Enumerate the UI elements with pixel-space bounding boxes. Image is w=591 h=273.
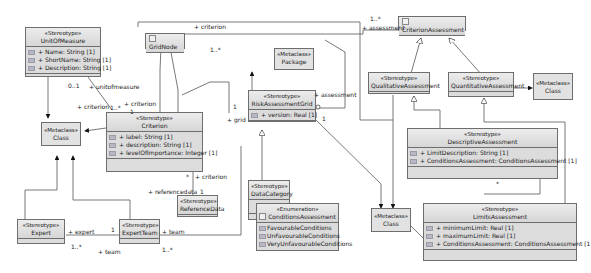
enumeration-conditions-assessment[interactable]: «Enumeration» ConditionsAssessment Favou…	[256, 203, 339, 251]
class-risk-assessment-grid[interactable]: «Stereotype» RiskAssessmentGrid + versio…	[248, 90, 316, 122]
attribute-icon	[28, 50, 35, 55]
stereotype-label: «Stereotype»	[122, 221, 157, 229]
attributes-section	[369, 92, 429, 93]
stereotype-label: «Enumeration»	[259, 205, 336, 213]
class-header: GridNode	[146, 34, 184, 53]
class-expert[interactable]: «Stereotype» Expert	[17, 219, 65, 244]
attribute-icon	[28, 66, 35, 71]
class-name: QuantitativeAssessment	[451, 82, 511, 90]
class-header: «Metaclass» Class	[534, 74, 572, 99]
attributes-section: + LimitDescription: String [1] + Conditi…	[408, 148, 557, 167]
role-label: + assessment	[314, 91, 357, 98]
metaclass-class-right[interactable]: «Metaclass» Class	[533, 73, 573, 100]
attribute[interactable]: + ConditionsAssessment: ConditionsAssess…	[410, 157, 555, 165]
class-header: «Metaclass» Package	[275, 49, 313, 69]
attribute[interactable]: + label: String [1]	[109, 133, 200, 141]
class-name: Package	[277, 58, 311, 66]
class-reference-data[interactable]: «Stereotype» ReferenceData	[177, 195, 218, 217]
class-name: CriterionAssessment	[402, 26, 464, 33]
multiplicity-label: 0..1	[68, 82, 79, 89]
multiplicity-label: 1..*	[110, 104, 121, 111]
attributes-section	[120, 239, 159, 240]
class-name: ExpertTeam	[122, 229, 157, 237]
class-name: DataCategory	[251, 190, 287, 198]
metaclass-package[interactable]: «Metaclass» Package	[274, 48, 314, 70]
stereotype-label: «Stereotype»	[28, 29, 98, 37]
class-name: RiskAssessmentGrid	[251, 100, 313, 108]
role-label: + assessment	[362, 24, 405, 31]
attribute-icon	[410, 151, 417, 156]
class-name: UnitOfMeasure	[28, 37, 98, 45]
stereotype-label: «Stereotype»	[410, 130, 555, 138]
role-label: + unitofmeasure	[89, 83, 140, 90]
attribute[interactable]: + minimumLimit: Real [1]	[426, 224, 574, 232]
class-name: Class	[374, 220, 408, 228]
literals-section: FavourableConditions UnFavourableConditi…	[257, 223, 338, 249]
operations-section	[107, 159, 202, 165]
role-label: + criterion	[77, 103, 109, 110]
attributes-section	[449, 92, 513, 94]
class-name: ConditionsAssessment	[268, 213, 336, 220]
role-label: + criterion	[194, 23, 226, 30]
attribute[interactable]: + Description: String [1]	[28, 64, 98, 72]
attribute[interactable]: + ConditionsAssessment: ConditionsAssess…	[426, 240, 574, 248]
class-grid-node[interactable]: GridNode	[145, 33, 185, 49]
enum-literal[interactable]: UnFavourableConditions	[259, 232, 336, 240]
stereotype-label: «Stereotype»	[251, 92, 313, 100]
literal-icon	[259, 234, 266, 239]
operations-section	[424, 250, 576, 258]
enum-literal[interactable]: FavourableConditions	[259, 224, 336, 232]
class-header: CriterionAssessment	[399, 17, 465, 36]
attributes-section	[399, 36, 465, 38]
stereotype-label: «Stereotype»	[20, 221, 62, 229]
attribute-icon	[426, 234, 433, 239]
class-name: GridNode	[149, 43, 177, 50]
role-label: + referencedata	[148, 188, 197, 195]
attribute[interactable]: + ShortName: String [1]	[28, 56, 98, 64]
multiplicity-label: 1..*	[162, 246, 173, 253]
class-criterion[interactable]: «Stereotype» Criterion + label: String […	[106, 112, 203, 172]
class-header: «Stereotype» QuantitativeAssessment	[449, 73, 513, 92]
stereotype-label: «Metaclass»	[536, 79, 570, 87]
class-descriptive-assessment[interactable]: «Stereotype» DescriptiveAssessment + Lim…	[407, 128, 558, 179]
attribute[interactable]: + LimitDescription: String [1]	[410, 149, 555, 157]
class-criterion-assessment[interactable]: CriterionAssessment	[398, 16, 466, 31]
multiplicity-label: 1	[233, 103, 237, 110]
attributes-section	[18, 239, 64, 240]
class-qualitative-assessment[interactable]: «Stereotype» QualitativeAssessment	[368, 72, 430, 94]
enum-literal[interactable]: VeryUnfavourableConditions	[259, 240, 336, 248]
class-header: «Stereotype» LimitsAssessment	[424, 204, 576, 223]
attributes-section: + minimumLimit: Real [1] + maximumLimit:…	[424, 223, 576, 250]
role-label: + team	[98, 248, 121, 255]
role-label: + grid	[227, 116, 246, 123]
attribute[interactable]: + Name: String [1]	[28, 48, 98, 56]
class-icon	[149, 35, 156, 42]
class-quantitative-assessment[interactable]: «Stereotype» QuantitativeAssessment	[448, 72, 514, 97]
attribute[interactable]: + levelOfImportance: Integer [1]	[109, 149, 200, 157]
attributes-section: + Name: String [1] + ShortName: String […	[26, 47, 100, 74]
role-label: + expert	[68, 228, 94, 235]
multiplicity-label: *	[186, 173, 189, 180]
class-unit-of-measure[interactable]: «Stereotype» UnitOfMeasure + Name: Strin…	[25, 27, 101, 77]
operations-section	[249, 121, 315, 125]
class-name: Criterion	[109, 122, 200, 130]
attribute-icon	[426, 226, 433, 231]
stereotype-label: «Stereotype»	[451, 74, 511, 82]
multiplicity-label: 1..*	[210, 46, 221, 53]
attribute[interactable]: + version: Real [1]	[251, 111, 313, 119]
class-name: Expert	[20, 229, 62, 237]
class-expert-team[interactable]: «Stereotype» ExpertTeam	[119, 219, 160, 244]
attribute[interactable]: + maximumLimit: Real [1]	[426, 232, 574, 240]
class-header: «Stereotype» UnitOfMeasure	[26, 28, 100, 47]
attributes-section: + label: String [1] + description: Strin…	[107, 132, 202, 159]
literal-icon	[259, 226, 266, 231]
class-limits-assessment[interactable]: «Stereotype» LimitsAssessment + minimumL…	[423, 203, 577, 261]
class-header: «Stereotype» RiskAssessmentGrid	[249, 91, 315, 110]
attribute-icon	[109, 143, 116, 148]
class-name: DescriptiveAssessment	[410, 138, 555, 146]
metaclass-class-bottom[interactable]: «Metaclass» Class	[371, 208, 411, 232]
attribute-icon	[28, 58, 35, 63]
attribute[interactable]: + description: String [1]	[109, 141, 200, 149]
metaclass-class-left[interactable]: «Metaclass» Class	[41, 122, 81, 146]
role-label: + team	[162, 228, 185, 235]
